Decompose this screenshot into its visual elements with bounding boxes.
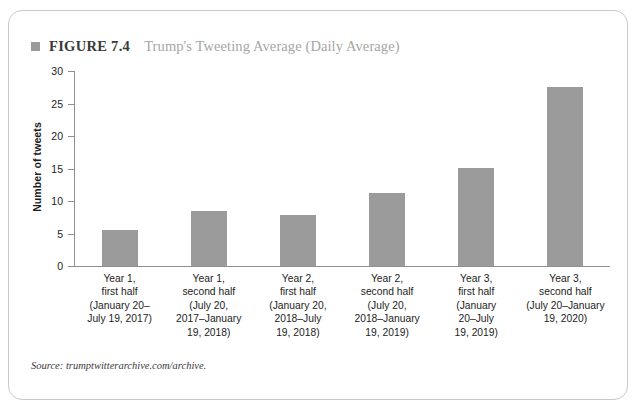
y-axis-tick-label: 20: [23, 130, 63, 142]
y-axis-tick-label: 30: [23, 65, 63, 77]
y-axis-tick: [68, 71, 74, 72]
bar: [102, 230, 138, 266]
bars-container: [75, 71, 610, 266]
x-axis-category-label: Year 1, first half (January 20– July 19,…: [71, 272, 168, 326]
y-axis-tick-label: 10: [23, 195, 63, 207]
bar: [547, 87, 583, 266]
x-axis-category-label: Year 3, first half (January 20–July 19, …: [428, 272, 525, 339]
x-axis-category-label: Year 3, second half (July 20–January 19,…: [517, 272, 614, 326]
y-axis-tick: [68, 169, 74, 170]
x-axis-line: [74, 266, 610, 267]
y-axis-tick: [68, 104, 74, 105]
bar: [280, 215, 316, 266]
bar: [458, 168, 494, 266]
y-axis-tick-label: 5: [23, 228, 63, 240]
y-axis-tick: [68, 136, 74, 137]
chart-plot-area: Number of tweets 051015202530 Year 1, fi…: [9, 11, 629, 401]
figure-card: FIGURE 7.4 Trump's Tweeting Average (Dai…: [8, 10, 628, 400]
bar: [369, 193, 405, 266]
x-axis-category-label: Year 2, second half (July 20, 2018–Janua…: [339, 272, 436, 339]
y-axis-tick-label: 0: [23, 260, 63, 272]
source-note: Source: trumptwitterarchive.com/archive.: [31, 360, 206, 371]
bar: [191, 211, 227, 266]
y-axis-tick-label: 15: [23, 163, 63, 175]
x-axis-labels: Year 1, first half (January 20– July 19,…: [75, 272, 610, 362]
x-axis-category-label: Year 1, second half (July 20, 2017–Janua…: [160, 272, 257, 339]
y-axis-tick: [68, 266, 74, 267]
y-axis-tick: [68, 201, 74, 202]
y-axis-tick: [68, 234, 74, 235]
x-axis-category-label: Year 2, first half (January 20, 2018–Jul…: [249, 272, 346, 339]
y-axis-tick-label: 25: [23, 98, 63, 110]
